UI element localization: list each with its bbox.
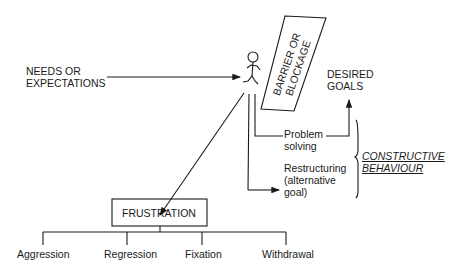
problem-solving-arrow [326, 100, 349, 136]
outcome-regression: Regression [104, 248, 157, 260]
outcome-aggression: Aggression [17, 248, 70, 260]
problem-solving-label: Problem solving [284, 128, 323, 152]
diagram-canvas [0, 0, 464, 270]
outcome-fixation: Fixation [185, 248, 222, 260]
needs-label: NEEDS OR EXPECTATIONS [26, 65, 106, 89]
frustration-arrow [160, 93, 244, 215]
outcome-withdrawal: Withdrawal [262, 248, 314, 260]
constructive-behaviour-label: CONSTRUCTIVE BEHAVIOUR [362, 150, 445, 174]
desired-goals-label: DESIRED GOALS [327, 68, 374, 92]
constructive-brace [355, 120, 358, 198]
restructuring-label: Restructuring (alternative goal) [284, 162, 346, 198]
frustration-label: FRUSTRATION [122, 207, 196, 219]
person-figure-icon [243, 52, 260, 84]
